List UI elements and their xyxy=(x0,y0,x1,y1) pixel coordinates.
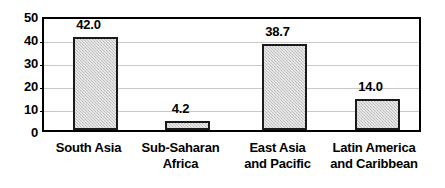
y-axis-tick-label: 20 xyxy=(4,80,38,93)
y-axis-tick-label: 40 xyxy=(4,34,38,47)
bar-value-label: 4.2 xyxy=(143,102,218,115)
bar-value-label: 38.7 xyxy=(240,25,315,38)
category-line-1: Latin America xyxy=(333,140,416,155)
plot-area xyxy=(42,17,421,132)
category-line-1: Sub-Saharan xyxy=(142,140,220,155)
y-axis-tick-label: 10 xyxy=(4,103,38,116)
bar-latin-america[interactable] xyxy=(355,99,400,130)
y-axis-tick-mark xyxy=(40,88,44,89)
bar-east-asia[interactable] xyxy=(262,44,307,130)
y-axis-tick-label: 30 xyxy=(4,57,38,70)
bar-value-label: 42.0 xyxy=(51,18,126,31)
y-axis-tick-label: 50 xyxy=(4,11,38,24)
bar-sub-saharan[interactable] xyxy=(165,121,210,130)
bar-value-label: 14.0 xyxy=(333,80,408,93)
y-axis-tick-label: 0 xyxy=(4,126,38,139)
y-axis-tick-mark xyxy=(40,65,44,66)
y-axis-tick-mark xyxy=(40,42,44,43)
bar-chart: 50 40 30 20 10 0 42.0 4.2 38.7 14.0 Sout… xyxy=(0,0,445,188)
bar-south-asia[interactable] xyxy=(73,37,118,130)
x-axis-category-label-latin-america-and-caribbean: Latin America and Caribbean xyxy=(308,140,440,172)
category-line-1: South Asia xyxy=(56,140,121,155)
y-axis-tick-mark xyxy=(40,111,44,112)
category-line-1: East Asia xyxy=(249,140,305,155)
category-line-2: and Caribbean xyxy=(308,156,440,172)
